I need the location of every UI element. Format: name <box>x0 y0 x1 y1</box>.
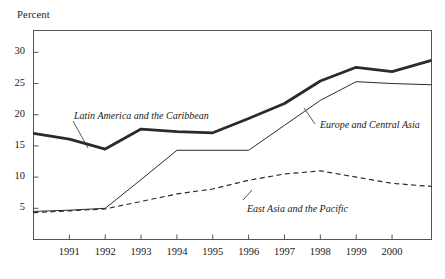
annotation-latin-america: Latin America and the Caribbean <box>74 110 209 121</box>
annotation-europe-central-asia: Europe and Central Asia <box>320 119 420 130</box>
leader-line-east-asia-pacific <box>243 190 252 200</box>
y-tick-label-10: 10 <box>3 170 25 181</box>
annotation-leader-lines <box>73 108 315 200</box>
chart-figure: Percent Latin America and the Caribbean … <box>0 0 445 279</box>
x-tick-label-1998: 1998 <box>300 246 340 257</box>
y-tick-label-20: 20 <box>3 108 25 119</box>
x-axis-ticks <box>69 235 392 240</box>
chart-plot-area <box>0 0 445 279</box>
series-lines <box>34 60 432 212</box>
y-tick-label-5: 5 <box>3 201 25 212</box>
x-tick-label-1996: 1996 <box>229 246 269 257</box>
x-tick-label-1995: 1995 <box>193 246 233 257</box>
series-line-east-asia-and-the-pacific <box>34 171 432 213</box>
y-axis-ticks <box>34 52 39 208</box>
plot-frame <box>34 31 432 240</box>
y-tick-label-15: 15 <box>3 139 25 150</box>
x-tick-label-1993: 1993 <box>121 246 161 257</box>
x-tick-label-1992: 1992 <box>85 246 125 257</box>
y-tick-label-25: 25 <box>3 77 25 88</box>
x-tick-label-1999: 1999 <box>336 246 376 257</box>
x-tick-label-2000: 2000 <box>372 246 412 257</box>
series-line-latin-america-and-the-caribbean <box>34 60 432 149</box>
leader-line-latin-america <box>73 121 88 148</box>
annotation-east-asia-pacific: East Asia and the Pacific <box>247 203 348 214</box>
y-tick-label-30: 30 <box>3 45 25 56</box>
x-tick-label-1991: 1991 <box>49 246 89 257</box>
x-tick-label-1997: 1997 <box>264 246 304 257</box>
leader-line-europe-central-asia <box>304 108 315 124</box>
x-tick-label-1994: 1994 <box>157 246 197 257</box>
